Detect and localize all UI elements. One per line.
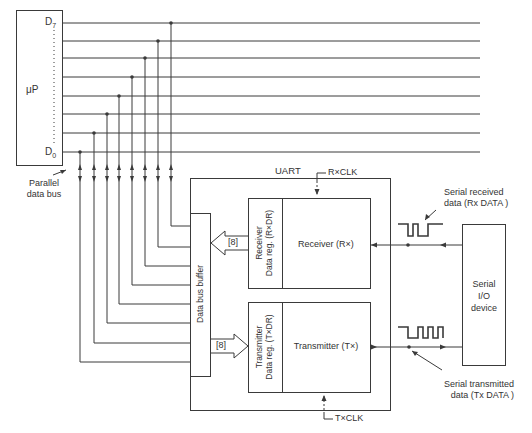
tx-width-label: [8] bbox=[216, 340, 226, 351]
tx-clock-label: T×CLK bbox=[335, 413, 363, 424]
microprocessor-box bbox=[17, 11, 63, 166]
rx-clock-label: R×CLK bbox=[328, 167, 357, 178]
bidirectional-arrows bbox=[60, 21, 446, 401]
pin-d7-label: D7 bbox=[45, 16, 56, 31]
tx-data-label: Serial transmitted data (Tx DATA ) bbox=[444, 379, 514, 401]
txdr-label: Transmitter Data reg. (T×DR) bbox=[254, 303, 276, 391]
parallel-data-bus-label: Parallel data bus bbox=[22, 178, 66, 200]
receiver-label: Receiver (R×) bbox=[282, 239, 370, 250]
tx-waveform bbox=[398, 327, 443, 338]
rx-width-label: [8] bbox=[228, 237, 238, 248]
uart-title: UART bbox=[275, 165, 301, 176]
transmitter-label: Transmitter (T×) bbox=[282, 341, 370, 352]
rx-data-label: Serial received data (Rx DATA ) bbox=[444, 187, 508, 209]
pin-d0-label: D0 bbox=[45, 146, 56, 161]
serial-io-device-label: Serial I/O device bbox=[462, 278, 506, 314]
rxdr-label: Receiver Data reg. (R×DR) bbox=[254, 199, 276, 287]
uart-box bbox=[191, 179, 391, 411]
data-bus-buffer-label: Data bus buffer bbox=[195, 254, 205, 334]
microprocessor-label: μP bbox=[26, 84, 38, 95]
rx-waveform bbox=[398, 224, 443, 236]
